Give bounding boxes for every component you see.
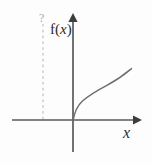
y-axis-label-f: f(	[50, 21, 60, 37]
function-curve	[73, 69, 131, 121]
x-axis-label: x	[123, 125, 130, 141]
unknown-value-question-mark: ?	[39, 12, 44, 24]
y-axis-label-var: x	[60, 21, 67, 37]
x-axis-arrowhead	[133, 116, 142, 125]
function-graph-figure: f(x) x ?	[0, 0, 152, 165]
y-axis-label: f(x)	[50, 22, 72, 37]
y-axis-label-paren: )	[67, 21, 72, 37]
